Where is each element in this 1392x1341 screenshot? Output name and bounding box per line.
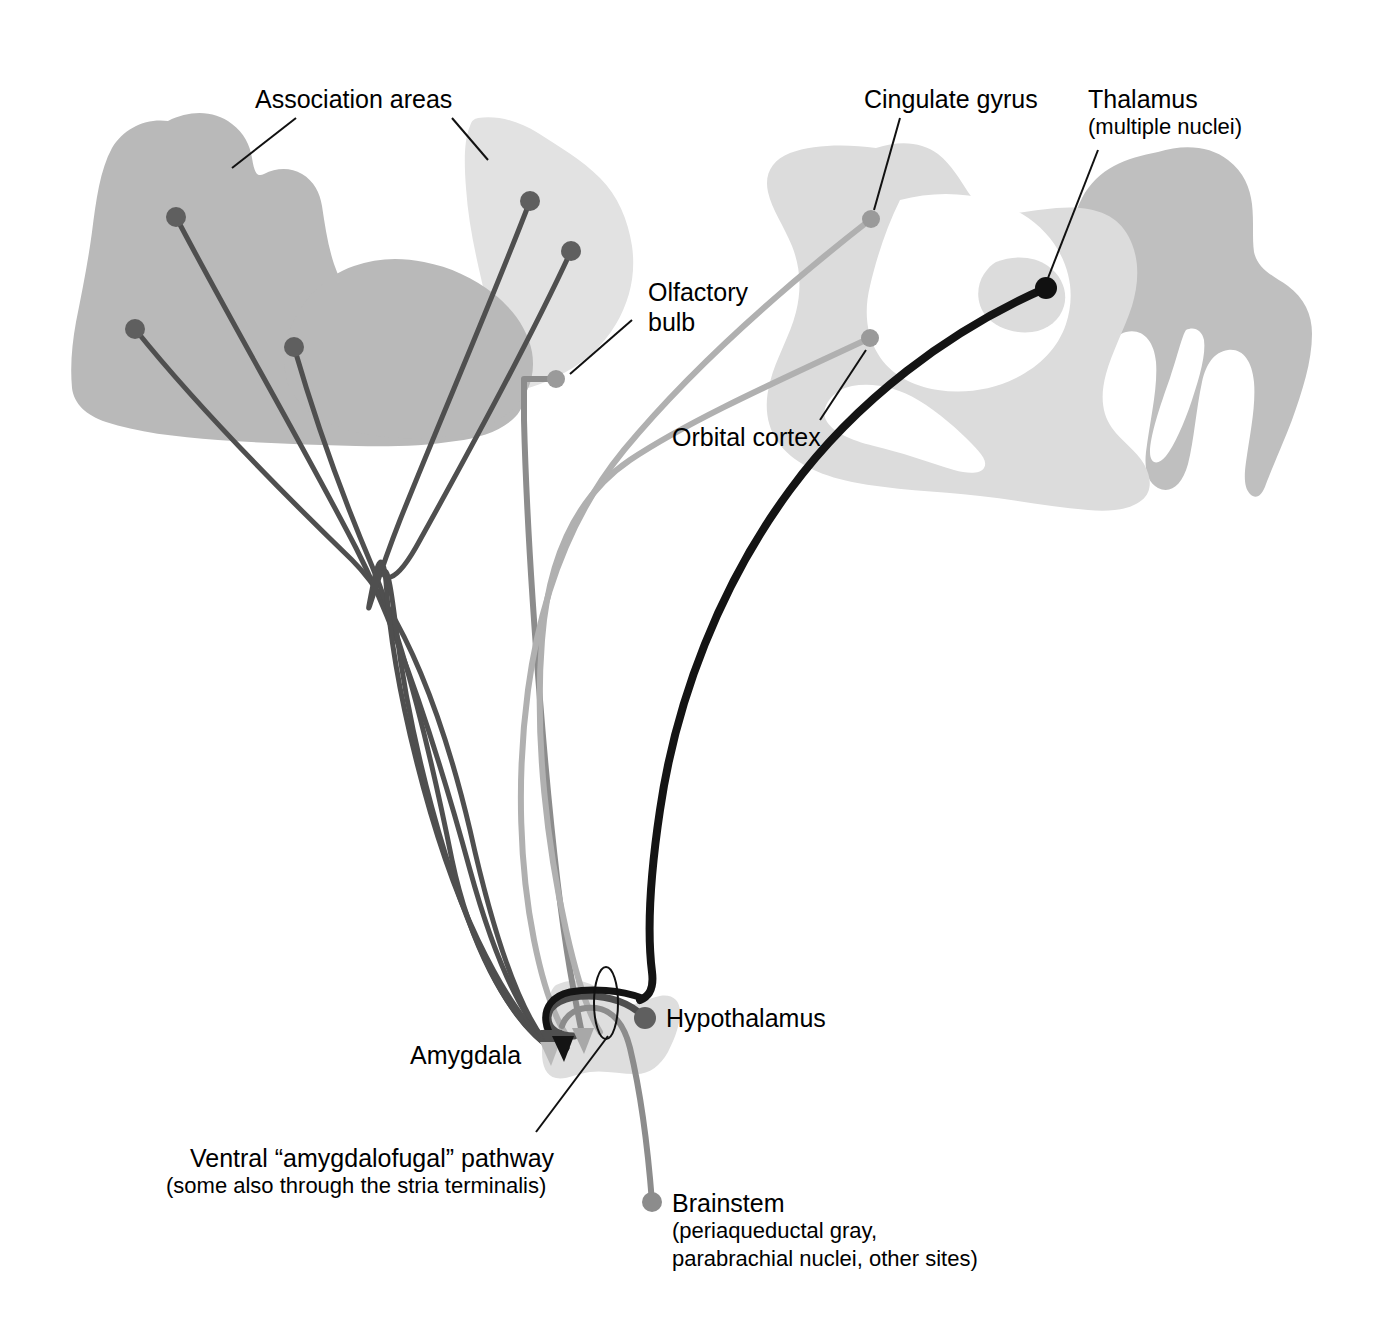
label-ventral-pathway-line1: Ventral “amygdalofugal” pathway [190, 1143, 554, 1174]
diagram-canvas [0, 0, 1392, 1341]
brainstem-dot [642, 1192, 662, 1212]
label-brainstem-line3: parabrachial nuclei, other sites) [672, 1246, 978, 1273]
assoc-dot-5 [561, 241, 581, 261]
label-amygdala: Amygdala [410, 1040, 521, 1071]
label-thalamus-line1: Thalamus [1088, 84, 1198, 115]
hypothalamus-dot [634, 1007, 656, 1029]
assoc-dot-3 [284, 337, 304, 357]
label-thalamus-line2: (multiple nuclei) [1088, 114, 1242, 141]
label-association-areas: Association areas [255, 84, 452, 115]
orbital-cortex-dot [861, 329, 879, 347]
thalamus-dot [1035, 277, 1057, 299]
assoc-dot-1 [166, 207, 186, 227]
olfactory-bulb-dot [547, 370, 565, 388]
cingulate-gyrus-dot [862, 210, 880, 228]
assoc-dot-4 [520, 191, 540, 211]
label-olfactory-bulb-line1: Olfactory [648, 277, 748, 308]
amygdala-connections-figure: Association areas Olfactory bulb Orbital… [0, 0, 1392, 1341]
label-orbital-cortex: Orbital cortex [672, 422, 821, 453]
label-cingulate-gyrus: Cingulate gyrus [864, 84, 1038, 115]
label-hypothalamus: Hypothalamus [666, 1003, 826, 1034]
label-brainstem-line1: Brainstem [672, 1188, 785, 1219]
label-olfactory-bulb-line2: bulb [648, 307, 695, 338]
label-ventral-pathway-line2: (some also through the stria terminalis) [166, 1173, 546, 1200]
assoc-dot-2 [125, 319, 145, 339]
label-brainstem-line2: (periaqueductal gray, [672, 1218, 877, 1245]
